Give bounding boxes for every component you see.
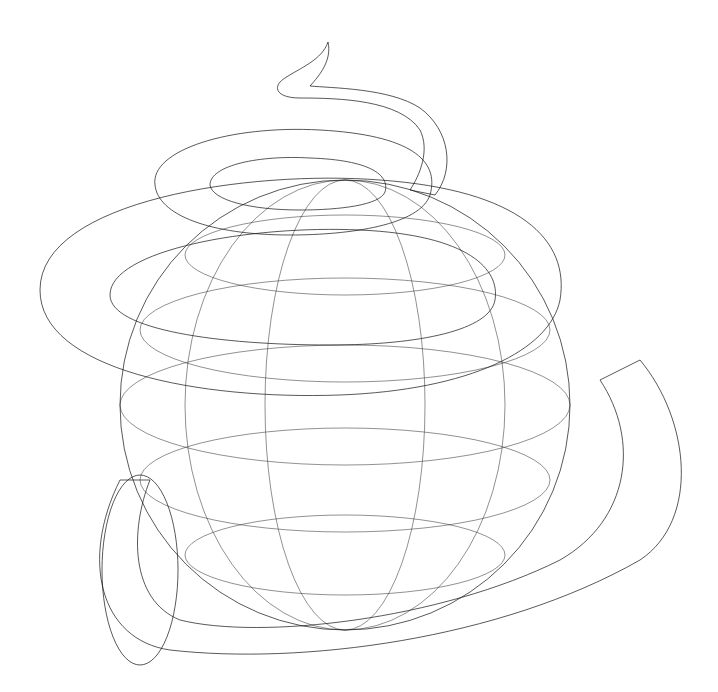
sphere [120,180,570,630]
bottom-tube [100,360,682,665]
wireframe-render [0,0,718,692]
outer-coil [40,178,561,395]
horn-tip [277,42,447,195]
wireframe-svg [0,0,718,692]
